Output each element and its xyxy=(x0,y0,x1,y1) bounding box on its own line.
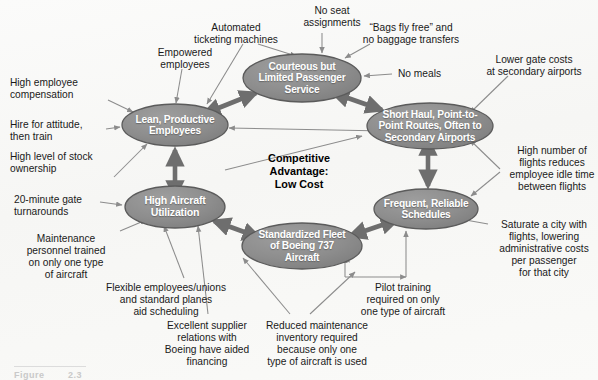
node-ellipse-frequent-schedules[interactable] xyxy=(374,189,478,229)
node-ellipse-lean-employees[interactable] xyxy=(122,104,228,146)
figure-caption-number: 2.3 xyxy=(68,370,82,380)
annotation-high-employee-compensation: High employee compensation xyxy=(10,77,104,101)
node-ellipse-short-haul-routes[interactable] xyxy=(367,103,493,149)
figure-canvas: Courteous but Limited Passenger ServiceL… xyxy=(0,0,598,380)
annotation-lower-gate-costs: Lower gate costs at secondary airports xyxy=(474,54,594,78)
annotation-maintenance-personnel-trained: Maintenance personnel trained on only on… xyxy=(14,233,118,281)
arrow-lower-gate-costs xyxy=(470,76,508,113)
arrow-empowered-employees xyxy=(176,69,182,103)
annotation-automated-ticketing: Automated ticketing machines xyxy=(184,22,288,46)
arrow-twenty-minute-turnarounds xyxy=(100,202,122,205)
annotation-high-number-of-flights: High number of flights reduces employee … xyxy=(506,145,598,193)
annotation-hire-for-attitude: Hire for attitude, then train xyxy=(10,119,104,143)
annotation-pilot-training: Pilot training required on only one type… xyxy=(348,282,458,318)
ring-lean-to-courteous xyxy=(216,93,256,109)
annotation-high-level-stock-ownership: High level of stock ownership xyxy=(10,151,114,175)
arrow-flexible-employees xyxy=(164,226,184,278)
arrow-high-employee-compensation xyxy=(108,100,133,112)
node-ellipse-courteous-service[interactable] xyxy=(243,54,361,102)
annotation-flexible-employees-unions: Flexible employees/unions and standard p… xyxy=(96,282,236,318)
arrow-hire-for-attitude xyxy=(106,127,120,129)
annotation-no-meals: No meals xyxy=(398,68,454,80)
node-ellipse-standardized-fleet[interactable] xyxy=(242,223,362,269)
arrow-high-level-stock xyxy=(114,144,147,177)
figure-caption-rule xyxy=(14,366,86,367)
arrow-no-meals xyxy=(364,74,392,76)
annotation-bags-fly-free: “Bags fly free” and no baggage transfers xyxy=(352,22,470,46)
ring-courteous-to-shorthaul xyxy=(345,97,382,110)
annotation-saturate-a-city: Saturate a city with flights, lowering a… xyxy=(490,219,598,279)
annotation-reduced-maintenance-inventory: Reduced maintenance inventory required b… xyxy=(256,320,378,368)
annotation-excellent-supplier-relations: Excellent supplier relations with Boeing… xyxy=(158,320,256,368)
node-ellipse-high-aircraft-utilization[interactable] xyxy=(125,186,225,228)
ring-frequent-to-fleet xyxy=(350,224,385,236)
arrow-high-number-flights-a xyxy=(470,140,500,169)
center-competitive-advantage-label: Competitive Advantage: Low Cost xyxy=(238,152,360,192)
annotation-empowered-employees: Empowered employees xyxy=(146,47,224,71)
arrow-bags-fly-free xyxy=(345,44,370,58)
figure-caption-title: Figure xyxy=(14,370,45,380)
ring-fleet-to-util xyxy=(214,221,247,233)
arrow-high-number-flights-b xyxy=(471,172,500,196)
annotation-twenty-minute-turnarounds: 20-minute gate turnarounds xyxy=(14,194,100,218)
